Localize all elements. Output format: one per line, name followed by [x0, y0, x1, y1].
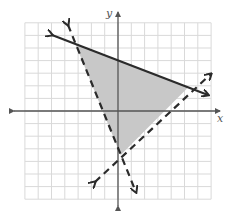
- coordinate-plane: x y: [0, 0, 235, 218]
- x-axis-label: x: [217, 112, 224, 125]
- y-axis-label: y: [105, 7, 113, 20]
